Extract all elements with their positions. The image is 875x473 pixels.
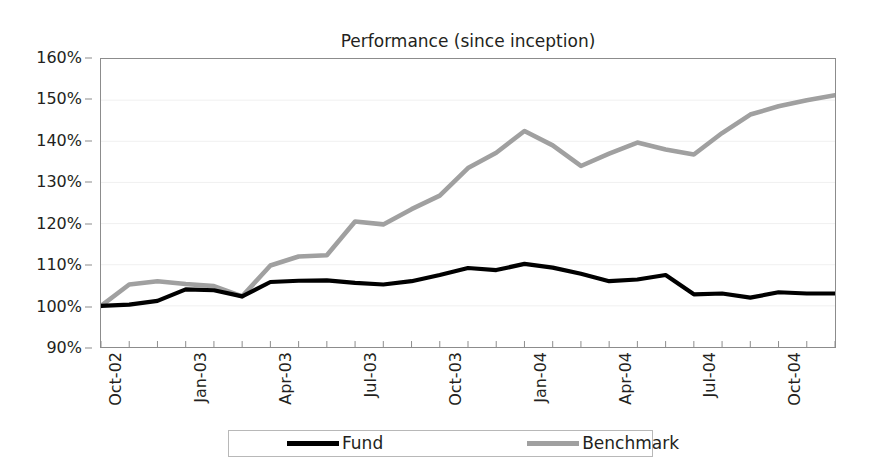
legend-label-benchmark: Benchmark bbox=[582, 434, 679, 453]
y-tick-label: 120% bbox=[36, 215, 82, 233]
y-tick-mark bbox=[85, 223, 92, 224]
legend-swatch-benchmark-icon bbox=[527, 441, 579, 446]
y-tick-mark bbox=[85, 58, 92, 59]
y-tick-label: 130% bbox=[36, 173, 82, 191]
x-tick-label: Oct-03 bbox=[447, 352, 464, 406]
x-tick-label: Apr-04 bbox=[617, 352, 634, 405]
y-tick-label: 140% bbox=[36, 132, 82, 150]
x-tick-label: Jul-03 bbox=[362, 352, 379, 397]
series-line-benchmark bbox=[101, 95, 835, 306]
plot-svg bbox=[101, 59, 835, 347]
x-tick-label: Jan-03 bbox=[192, 352, 209, 403]
chart-legend: Fund Benchmark bbox=[228, 430, 653, 457]
legend-swatch-fund-icon bbox=[287, 441, 339, 446]
y-tick-label: 150% bbox=[36, 90, 82, 108]
y-tick-mark bbox=[85, 348, 92, 349]
y-tick-mark bbox=[85, 306, 92, 307]
chart-title: Performance (since inception) bbox=[100, 30, 836, 52]
x-axis: Oct-02Jan-03Apr-03Jul-03Oct-03Jan-04Apr-… bbox=[100, 352, 836, 437]
y-tick-mark bbox=[85, 99, 92, 100]
y-tick-mark bbox=[85, 182, 92, 183]
y-tick-label: 110% bbox=[36, 256, 82, 274]
plot-area bbox=[100, 58, 836, 348]
legend-item-fund[interactable]: Fund bbox=[287, 434, 383, 453]
x-tick-label: Oct-04 bbox=[786, 352, 803, 406]
y-tick-mark bbox=[85, 265, 92, 266]
y-tick-label: 90% bbox=[46, 339, 82, 357]
x-tick-label: Oct-02 bbox=[107, 352, 124, 406]
y-tick-label: 100% bbox=[36, 298, 82, 316]
x-tick-label: Apr-03 bbox=[277, 352, 294, 405]
legend-item-benchmark[interactable]: Benchmark bbox=[527, 434, 679, 453]
y-axis: 90%100%110%120%130%140%150%160% bbox=[0, 58, 92, 348]
y-tick-label: 160% bbox=[36, 49, 82, 67]
performance-chart-figure: Performance (since inception) 90%100%110… bbox=[0, 0, 875, 473]
legend-label-fund: Fund bbox=[342, 434, 383, 453]
y-tick-mark bbox=[85, 140, 92, 141]
x-tick-label: Jan-04 bbox=[532, 352, 549, 403]
x-tick-label: Jul-04 bbox=[701, 352, 718, 397]
